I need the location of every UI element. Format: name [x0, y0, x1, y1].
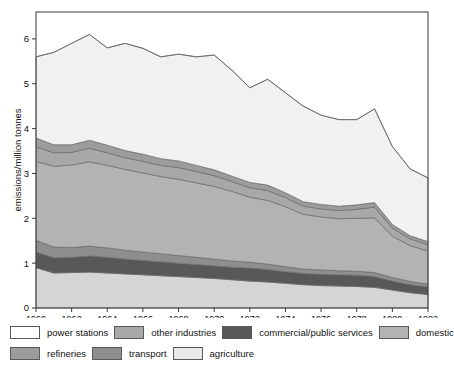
legend-swatch-agriculture: [173, 347, 203, 360]
y-tick-label: 2: [24, 213, 29, 224]
y-tick-label: 3: [24, 168, 29, 179]
legend-swatch-commercial-public-services: [222, 326, 252, 339]
x-tick-label: 1960: [26, 314, 46, 318]
legend-label-refineries: refineries: [47, 348, 86, 359]
legend-row-1: power stations other industries commerci…: [0, 322, 444, 343]
legend-swatch-other-industries: [114, 326, 144, 339]
y-tick-label: 6: [24, 33, 29, 44]
x-tick-label: 1978: [347, 314, 367, 318]
legend-label-other-industries: other industries: [151, 327, 216, 338]
legend-swatch-power-stations: [10, 326, 40, 339]
chart-svg: 0123456196019621964196619681970197219741…: [0, 0, 444, 318]
x-tick-label: 1962: [62, 314, 82, 318]
legend-item-other-industries[interactable]: other industries: [114, 326, 216, 339]
y-tick-label: 0: [24, 302, 29, 313]
legend-label-commercial-public-services: commercial/public services: [259, 327, 373, 338]
legend-item-commercial-public-services[interactable]: commercial/public services: [222, 326, 373, 339]
legend-label-domestic: domestic: [416, 327, 454, 338]
legend-item-transport[interactable]: transport: [92, 347, 167, 360]
chart-legend: power stations other industries commerci…: [0, 322, 444, 368]
legend-label-agriculture: agriculture: [210, 348, 254, 359]
legend-label-transport: transport: [129, 348, 167, 359]
legend-item-domestic[interactable]: domestic: [379, 326, 454, 339]
y-tick-label: 4: [24, 123, 29, 134]
x-tick-label: 1982: [418, 314, 438, 318]
x-tick-label: 1964: [97, 314, 117, 318]
stacked-area-chart: 0123456196019621964196619681970197219741…: [0, 0, 444, 318]
y-axis-label: emissions/million tonnes: [12, 109, 23, 212]
legend-item-agriculture[interactable]: agriculture: [173, 347, 254, 360]
y-tick-label: 5: [24, 78, 29, 89]
x-tick-label: 1972: [240, 314, 260, 318]
legend-label-power-stations: power stations: [47, 327, 108, 338]
x-tick-label: 1974: [275, 314, 295, 318]
x-tick-label: 1970: [204, 314, 224, 318]
legend-item-power-stations[interactable]: power stations: [10, 326, 108, 339]
legend-swatch-domestic: [379, 326, 409, 339]
x-tick-label: 1966: [133, 314, 153, 318]
x-tick-label: 1980: [382, 314, 402, 318]
legend-item-refineries[interactable]: refineries: [10, 347, 86, 360]
legend-swatch-transport: [92, 347, 122, 360]
legend-row-2: refineries transport agriculture: [0, 343, 444, 364]
legend-swatch-refineries: [10, 347, 40, 360]
y-tick-label: 1: [24, 258, 29, 269]
x-tick-label: 1976: [311, 314, 331, 318]
x-tick-label: 1968: [169, 314, 189, 318]
